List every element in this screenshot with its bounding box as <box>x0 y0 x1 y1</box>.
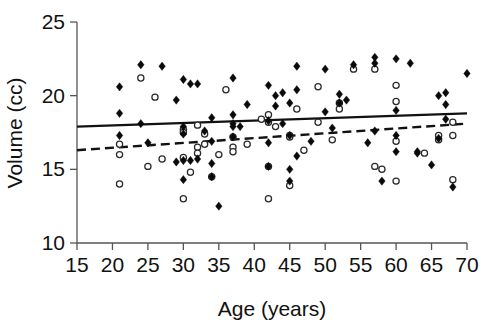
data-point-filled <box>428 161 435 169</box>
data-point-filled <box>442 89 449 97</box>
data-point-open <box>223 87 229 93</box>
data-point-filled <box>187 80 194 88</box>
data-point-open <box>450 119 456 125</box>
data-point-open <box>315 84 321 90</box>
x-tick-label: 20 <box>101 253 124 276</box>
data-point-open <box>450 177 456 183</box>
data-point-open <box>138 75 144 81</box>
data-point-open <box>258 116 264 122</box>
data-point-filled <box>379 177 386 185</box>
data-point-filled <box>286 99 293 107</box>
x-tick-labels: 152025303540455055606570 <box>65 253 478 276</box>
y-tick-label: 10 <box>42 231 65 254</box>
data-point-filled <box>230 111 237 119</box>
scatter-chart: 10152025 152025303540455055606570 Age (y… <box>0 0 483 327</box>
data-point-open <box>393 178 399 184</box>
series-open-circles <box>116 66 455 202</box>
series-filled-diamonds <box>116 53 470 210</box>
x-tick-label: 50 <box>314 253 337 276</box>
data-point-open <box>194 122 200 128</box>
data-point-filled <box>407 59 414 67</box>
data-point-filled <box>208 173 215 181</box>
x-tick-label: 40 <box>243 253 266 276</box>
data-point-open <box>265 196 271 202</box>
data-point-filled <box>237 122 244 130</box>
data-point-filled <box>464 69 471 77</box>
data-point-open <box>116 152 122 158</box>
data-point-filled <box>308 137 315 145</box>
data-point-filled <box>393 147 400 155</box>
data-point-filled <box>265 81 272 89</box>
y-axis-title: Volume (cc) <box>3 78 26 189</box>
data-point-filled <box>265 162 272 170</box>
data-point-filled <box>435 91 442 99</box>
data-point-filled <box>322 108 329 116</box>
y-tick-label: 15 <box>42 157 65 180</box>
data-point-filled <box>279 89 286 97</box>
data-point-open <box>230 149 236 155</box>
data-point-open <box>301 147 307 153</box>
data-point-open <box>116 141 122 147</box>
data-point-filled <box>329 124 336 132</box>
data-point-filled <box>208 114 215 122</box>
data-point-filled <box>372 59 379 67</box>
data-point-open <box>216 152 222 158</box>
data-point-filled <box>336 99 343 107</box>
data-point-filled <box>343 96 350 104</box>
y-axis-ticks <box>70 22 77 243</box>
data-point-filled <box>364 139 371 147</box>
data-point-filled <box>173 96 180 104</box>
data-point-filled <box>180 175 187 183</box>
x-tick-label: 70 <box>455 253 478 276</box>
data-point-filled <box>272 102 279 110</box>
x-tick-label: 65 <box>420 253 443 276</box>
data-point-filled <box>159 62 166 70</box>
data-point-open <box>329 137 335 143</box>
data-point-open <box>152 94 158 100</box>
y-tick-labels: 10152025 <box>42 10 65 254</box>
data-point-filled <box>194 80 201 88</box>
x-tick-label: 55 <box>349 253 372 276</box>
data-point-filled <box>208 137 215 145</box>
data-point-open <box>202 141 208 147</box>
x-tick-label: 15 <box>65 253 88 276</box>
x-tick-label: 35 <box>207 253 230 276</box>
data-point-filled <box>138 119 145 127</box>
data-point-open <box>372 163 378 169</box>
data-point-filled <box>393 131 400 139</box>
data-point-filled <box>393 106 400 114</box>
plot-area: 10152025 152025303540455055606570 Age (y… <box>0 0 483 327</box>
data-point-open <box>159 156 165 162</box>
data-point-filled <box>116 83 123 91</box>
data-point-open <box>315 119 321 125</box>
data-point-filled <box>286 165 293 173</box>
data-point-open <box>272 124 278 130</box>
data-point-filled <box>244 100 251 108</box>
data-point-filled <box>442 100 449 108</box>
x-tick-label: 60 <box>384 253 407 276</box>
data-point-open <box>116 181 122 187</box>
data-point-filled <box>372 127 379 135</box>
data-point-filled <box>336 90 343 98</box>
data-point-open <box>187 169 193 175</box>
data-point-filled <box>322 65 329 73</box>
data-point-filled <box>194 155 201 163</box>
trendlines <box>77 113 467 150</box>
data-point-open <box>244 141 250 147</box>
data-point-filled <box>173 158 180 166</box>
x-axis-title: Age (years) <box>218 297 327 320</box>
data-point-filled <box>272 91 279 99</box>
data-point-open <box>393 82 399 88</box>
data-point-open <box>393 98 399 104</box>
data-point-filled <box>116 109 123 117</box>
data-point-open <box>450 132 456 138</box>
data-point-filled <box>393 55 400 63</box>
data-point-open <box>379 166 385 172</box>
data-point-open <box>421 150 427 156</box>
x-tick-label: 30 <box>172 253 195 276</box>
data-point-open <box>180 196 186 202</box>
data-point-filled <box>265 139 272 147</box>
data-point-open <box>294 106 300 112</box>
data-point-filled <box>216 202 223 210</box>
data-point-filled <box>138 61 145 69</box>
